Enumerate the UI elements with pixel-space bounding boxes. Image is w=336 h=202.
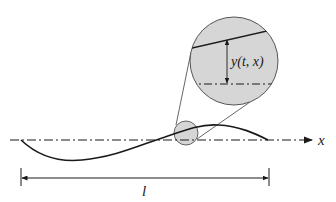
magnifier-large: y(t, x): [188, 17, 280, 105]
x-axis-label: x: [317, 132, 325, 148]
string-curve: [21, 125, 268, 161]
length-dimension: l: [21, 168, 269, 199]
displacement-label: y(t, x): [229, 54, 264, 70]
string-diagram: x y(t, x) l: [0, 0, 336, 202]
length-label: l: [142, 183, 146, 199]
